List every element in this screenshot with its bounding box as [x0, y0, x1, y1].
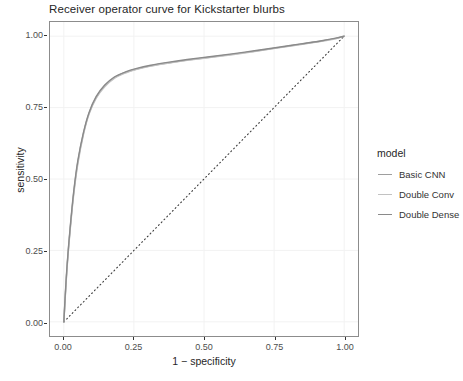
- x-axis-tick-label: 1.00: [336, 342, 354, 352]
- legend-item-double-dense[interactable]: Double Dense: [376, 206, 462, 223]
- legend: model Basic CNNDouble ConvDouble Dense: [376, 147, 462, 226]
- x-axis-tick-label: 0.50: [195, 342, 213, 352]
- plot-panel: [49, 21, 359, 337]
- x-axis-tick-mark: [63, 337, 64, 340]
- legend-item-double-conv[interactable]: Double Conv: [376, 186, 462, 203]
- y-axis-tick-label: 0.50: [25, 174, 43, 184]
- x-axis-title: 1 − specificity: [49, 355, 359, 367]
- plot-area-svg: [50, 22, 358, 336]
- y-axis-tick-label: 0.25: [25, 246, 43, 256]
- x-axis-tick-mark: [133, 337, 134, 340]
- y-axis-tick-label: 0.75: [25, 102, 43, 112]
- y-axis-tick-mark: [44, 323, 47, 324]
- y-axis-tick-mark: [44, 35, 47, 36]
- legend-title: model: [376, 147, 462, 159]
- legend-item-basic-cnn[interactable]: Basic CNN: [376, 166, 462, 183]
- y-axis-tick-label: 1.00: [25, 30, 43, 40]
- legend-color-swatch: [378, 174, 392, 175]
- legend-entries: Basic CNNDouble ConvDouble Dense: [376, 166, 462, 223]
- x-axis-tick-mark: [275, 337, 276, 340]
- legend-color-swatch: [378, 194, 392, 195]
- x-axis-tick-mark: [204, 337, 205, 340]
- y-axis-tick-label: 0.00: [25, 318, 43, 328]
- legend-item-label: Basic CNN: [399, 169, 445, 180]
- x-axis-tick-labels: 0.000.250.500.751.00: [49, 337, 359, 357]
- legend-key: [376, 206, 393, 223]
- legend-color-swatch: [378, 214, 392, 215]
- page-title: Receiver operator curve for Kickstarter …: [49, 3, 285, 15]
- legend-item-label: Double Dense: [399, 209, 459, 220]
- legend-key: [376, 166, 393, 183]
- x-axis-tick-label: 0.25: [125, 342, 143, 352]
- y-axis-tick-mark: [44, 107, 47, 108]
- x-axis-tick-label: 0.75: [266, 342, 284, 352]
- x-axis-tick-label: 0.00: [54, 342, 72, 352]
- y-axis-tick-mark: [44, 179, 47, 180]
- chart-root: Receiver operator curve for Kickstarter …: [0, 0, 463, 381]
- y-axis-tick-mark: [44, 251, 47, 252]
- y-axis-title: sensitivity: [14, 105, 26, 235]
- legend-item-label: Double Conv: [399, 189, 454, 200]
- x-axis-tick-mark: [345, 337, 346, 340]
- legend-key: [376, 186, 393, 203]
